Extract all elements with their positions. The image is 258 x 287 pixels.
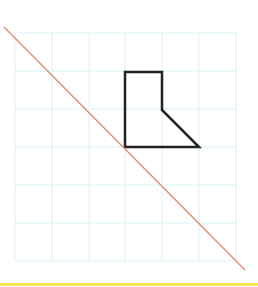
bottom-rule <box>0 283 258 286</box>
diagram-canvas <box>0 0 258 287</box>
